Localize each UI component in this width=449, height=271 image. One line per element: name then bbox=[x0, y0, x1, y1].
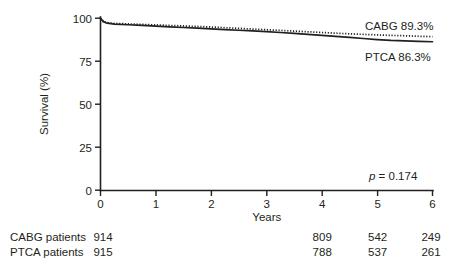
x-axis-title: Years bbox=[252, 211, 281, 223]
y-tick-label-100: 100 bbox=[73, 13, 92, 25]
y-axis-ticks bbox=[95, 18, 101, 190]
x-axis-tick-labels: 0 1 2 3 4 5 6 bbox=[97, 198, 435, 210]
x-tick-label-4: 4 bbox=[319, 198, 326, 210]
table-row: PTCA patients 915 788 537 261 bbox=[10, 246, 441, 258]
y-axis-tick-labels: 100 75 50 25 0 bbox=[73, 13, 92, 197]
table-row: CABG patients 914 809 542 249 bbox=[10, 231, 441, 243]
x-tick-label-1: 1 bbox=[153, 198, 159, 210]
y-axis-title: Survival (%) bbox=[38, 73, 50, 135]
y-tick-label-0: 0 bbox=[86, 185, 92, 197]
kaplan-meier-plot: 100 75 50 25 0 Survival (%) 0 1 2 3 4 5 … bbox=[0, 0, 449, 271]
curve-label-cabg: CABG 89.3% bbox=[365, 20, 433, 32]
numbers-at-risk-table: CABG patients 914 809 542 249 PTCA patie… bbox=[10, 231, 441, 258]
x-tick-label-2: 2 bbox=[208, 198, 214, 210]
x-tick-label-6: 6 bbox=[429, 198, 435, 210]
risk-value-cabg-year4: 809 bbox=[313, 231, 332, 243]
risk-value-cabg-year6: 249 bbox=[421, 231, 440, 243]
curve-label-ptca: PTCA 86.3% bbox=[365, 51, 431, 63]
x-tick-label-0: 0 bbox=[97, 198, 103, 210]
y-tick-label-75: 75 bbox=[79, 56, 92, 68]
risk-row-label-ptca: PTCA patients bbox=[10, 246, 84, 258]
p-value-number: = 0.174 bbox=[375, 170, 417, 182]
x-tick-label-3: 3 bbox=[264, 198, 270, 210]
y-tick-label-50: 50 bbox=[79, 99, 92, 111]
survival-chart-figure: 100 75 50 25 0 Survival (%) 0 1 2 3 4 5 … bbox=[0, 0, 449, 271]
risk-value-ptca-year5: 537 bbox=[368, 246, 387, 258]
risk-value-ptca-year6: 261 bbox=[421, 246, 440, 258]
x-tick-label-5: 5 bbox=[374, 198, 380, 210]
risk-value-cabg-year5: 542 bbox=[368, 231, 387, 243]
risk-value-ptca-year0: 915 bbox=[93, 246, 112, 258]
risk-row-label-cabg: CABG patients bbox=[10, 231, 86, 243]
p-value-annotation: p = 0.174 bbox=[368, 170, 418, 182]
risk-value-cabg-year0: 914 bbox=[93, 231, 113, 243]
y-tick-label-25: 25 bbox=[79, 142, 92, 154]
x-axis-ticks bbox=[101, 191, 433, 197]
risk-value-ptca-year4: 788 bbox=[313, 246, 332, 258]
